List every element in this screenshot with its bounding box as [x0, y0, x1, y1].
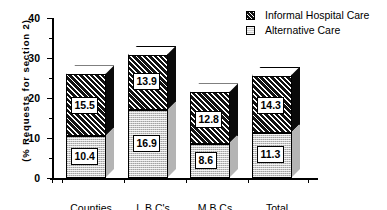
bar-side-upper-total	[291, 67, 301, 133]
y-tick-10: 10	[47, 138, 52, 139]
bar-group-mbcs[interactable]: 12.8 8.6	[190, 92, 238, 178]
legend-label-informal-hospital-care: Informal Hospital Care	[265, 9, 369, 21]
y-axis-line	[52, 18, 54, 178]
x-label-lbcs: L.B.C's	[136, 202, 170, 210]
bar-value-informal-mbcs: 12.8	[195, 111, 222, 129]
legend-item-informal-hospital-care[interactable]: Informal Hospital Care	[246, 9, 369, 21]
bar-group-counties[interactable]: 15.5 10.4	[66, 74, 114, 178]
bar-side-lower-lbcs	[167, 101, 177, 178]
bar-side-upper-counties	[105, 65, 115, 136]
bar-value-alternative-lbcs: 16.9	[133, 135, 160, 153]
bar-side-lower-total	[291, 124, 301, 178]
bar-side-lower-counties	[105, 127, 115, 178]
legend-label-alternative-care: Alternative Care	[265, 24, 340, 36]
legend-item-alternative-care[interactable]: Alternative Care	[246, 24, 369, 36]
y-tick-minor-5	[49, 158, 52, 159]
y-tick-40: 40	[47, 18, 52, 19]
bar-value-alternative-counties: 10.4	[71, 148, 98, 166]
chart-legend: Informal Hospital Care Alternative Care	[246, 9, 369, 39]
y-tick-30: 30	[47, 58, 52, 59]
stacked-bar-chart: (% Requests for section 2) 40 30 20 10 0	[0, 0, 387, 210]
bar-value-informal-total: 14.3	[257, 97, 284, 115]
y-axis-title: (% Requests for section 2)	[20, 1, 31, 181]
x-tick-1	[124, 178, 125, 183]
x-label-total: Total	[266, 202, 288, 210]
y-tick-minor-35	[49, 38, 52, 39]
y-tick-minor-15	[49, 118, 52, 119]
y-tick-label-40: 40	[28, 12, 40, 24]
x-tick-2	[186, 178, 187, 183]
x-tick-3	[248, 178, 249, 183]
x-tick-0	[62, 178, 63, 183]
y-tick-label-20: 20	[28, 92, 40, 104]
x-label-counties: Counties	[70, 202, 111, 210]
x-tick-4	[308, 178, 309, 183]
x-label-mbcs: M.B.Cs	[198, 202, 232, 210]
y-tick-label-30: 30	[28, 52, 40, 64]
bar-value-alternative-mbcs: 8.6	[195, 152, 217, 170]
y-tick-label-0: 0	[34, 172, 40, 184]
bar-value-informal-counties: 15.5	[71, 97, 98, 115]
bar-side-upper-lbcs	[167, 46, 177, 111]
y-tick-20: 20	[47, 98, 52, 99]
bar-group-total[interactable]: 14.3 11.3	[252, 76, 300, 178]
y-tick-minor-25	[49, 78, 52, 79]
y-tick-label-10: 10	[28, 132, 40, 144]
plot-area: 40 30 20 10 0	[52, 18, 310, 178]
bar-value-informal-lbcs: 13.9	[133, 73, 160, 91]
bar-group-lbcs[interactable]: 13.9 16.9	[128, 55, 176, 178]
stipple-swatch-icon	[246, 26, 255, 35]
x-axis-line	[50, 178, 318, 180]
bar-side-upper-mbcs	[229, 83, 239, 143]
hatch-swatch-icon	[246, 11, 255, 20]
bar-value-alternative-total: 11.3	[257, 146, 284, 164]
